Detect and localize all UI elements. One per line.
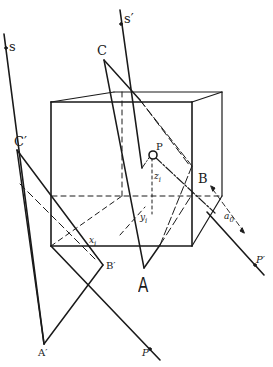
a0-dimension-line	[211, 187, 244, 232]
label-P-prime: P′	[256, 255, 265, 265]
point-P-lower	[149, 348, 152, 351]
label-a-0: a0	[224, 212, 234, 224]
label-y-sub: i	[145, 217, 147, 225]
triangle-CAB-hidden	[140, 100, 192, 245]
label-z-sub: i	[159, 176, 161, 184]
label-a-sub: 0	[229, 216, 233, 224]
label-B-prime: B′	[106, 261, 116, 271]
a0-arrow-bottom	[240, 228, 244, 233]
label-x-sub: i	[94, 240, 96, 248]
label-C: C	[97, 44, 107, 57]
a0-arrow-top	[211, 186, 215, 191]
label-A: A	[138, 274, 148, 296]
point-s-prime	[120, 23, 123, 26]
label-s: s	[9, 40, 16, 53]
label-s-prime: s′	[124, 12, 134, 25]
cube-visible-edges	[51, 92, 222, 246]
label-y-i: yi	[140, 213, 147, 225]
cube-hidden-edges	[51, 92, 222, 246]
label-B: B	[198, 172, 208, 185]
line-dashed-lower-right	[160, 193, 193, 245]
point-s	[5, 47, 8, 50]
label-P: P	[156, 142, 163, 152]
label-x-i: xi	[89, 236, 96, 248]
diagram-canvas	[0, 0, 273, 367]
label-A-prime: A′	[38, 348, 48, 358]
line-dashed-diag	[140, 100, 190, 166]
point-P	[149, 151, 157, 159]
label-C-prime: C′	[14, 135, 27, 148]
label-P-lower: P	[142, 348, 149, 358]
label-z-i: zi	[154, 172, 161, 184]
